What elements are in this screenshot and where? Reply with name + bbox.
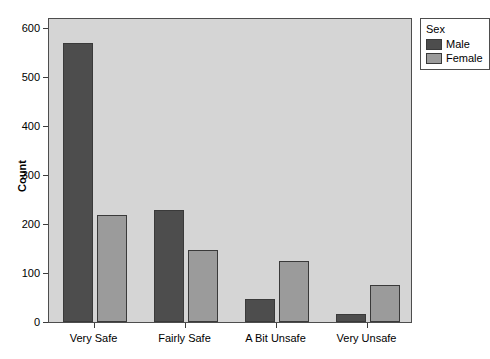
- bar-female-0: [97, 215, 127, 322]
- legend-item: Female: [426, 52, 483, 64]
- x-tick-mark: [185, 323, 186, 328]
- y-tick-label: 0: [34, 317, 40, 328]
- x-tick-mark: [276, 323, 277, 328]
- x-axis: Very SafeFairly SafeA Bit UnsafeVery Uns…: [48, 323, 412, 359]
- bar-male-0: [63, 43, 93, 322]
- x-tick-label: Fairly Safe: [158, 332, 211, 344]
- legend: Sex MaleFemale: [420, 18, 490, 70]
- y-tick-label: 200: [22, 219, 40, 230]
- legend-entries: MaleFemale: [426, 38, 483, 64]
- legend-swatch-icon: [426, 39, 442, 50]
- legend-title: Sex: [426, 23, 483, 35]
- y-tick-label: 600: [22, 23, 40, 34]
- y-axis: 0100200300400500600 Count: [0, 0, 48, 359]
- bar-chart: 0100200300400500600 Count Very SafeFairl…: [0, 0, 490, 359]
- bar-male-1: [154, 210, 184, 322]
- x-tick-mark: [94, 323, 95, 328]
- bar-male-3: [336, 314, 366, 322]
- x-tick-mark: [367, 323, 368, 328]
- legend-swatch-icon: [426, 53, 442, 64]
- bar-male-2: [245, 299, 275, 322]
- y-tick-label: 400: [22, 121, 40, 132]
- plot-area: [49, 19, 411, 322]
- plot-panel: [48, 18, 412, 323]
- legend-item: Male: [426, 38, 483, 50]
- legend-label: Male: [446, 38, 470, 50]
- legend-label: Female: [446, 52, 483, 64]
- x-tick-label: Very Unsafe: [337, 332, 397, 344]
- bar-female-3: [370, 285, 400, 322]
- y-tick-label: 100: [22, 268, 40, 279]
- y-tick-label: 500: [22, 72, 40, 83]
- y-axis-title: Count: [16, 146, 28, 206]
- x-tick-label: Very Safe: [70, 332, 118, 344]
- x-tick-label: A Bit Unsafe: [245, 332, 306, 344]
- bar-female-2: [279, 261, 309, 322]
- bar-female-1: [188, 250, 218, 322]
